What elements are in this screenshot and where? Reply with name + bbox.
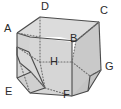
vertex-label-a: A (4, 23, 11, 34)
vertex-label-g: G (105, 61, 114, 72)
vertex-label-b: B (70, 33, 77, 44)
truncated-cube-svg (0, 0, 121, 109)
vertex-label-d: D (41, 1, 49, 12)
vertex-label-f: F (63, 89, 70, 100)
geometry-figure: D C A B H G E F (0, 0, 121, 109)
vertex-label-e: E (5, 86, 12, 97)
vertex-label-c: C (100, 5, 108, 16)
vertex-label-h: H (50, 56, 58, 67)
